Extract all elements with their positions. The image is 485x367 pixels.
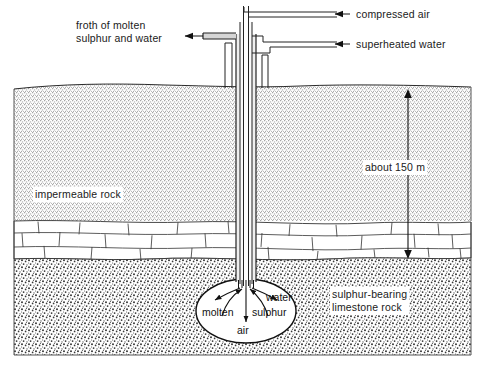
sulphur-label: sulphur	[252, 306, 286, 318]
sulphur-bearing-rock-label: sulphur-bearing limestone rock	[330, 287, 409, 315]
froth-label: froth of molten sulphur and water	[76, 19, 162, 45]
superheated-water-label: superheated water	[356, 38, 446, 51]
air-label: air	[237, 324, 249, 336]
diagram-canvas	[0, 0, 485, 367]
impermeable-rock-label: impermeable rock	[33, 187, 123, 202]
water-label: water	[266, 291, 292, 303]
sulphur-mining-diagram: froth of molten sulphur and water compre…	[0, 0, 485, 367]
depth-label: about 150 m	[363, 160, 427, 175]
compressed-air-label: compressed air	[356, 8, 430, 21]
molten-label: molten	[202, 306, 234, 318]
